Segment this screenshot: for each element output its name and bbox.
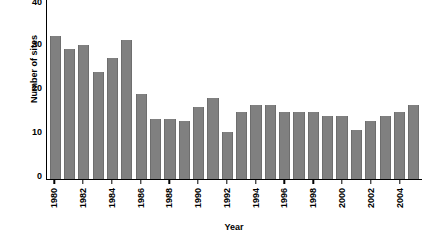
x-tick-label-cell: 2004 (394, 184, 405, 218)
y-tick-label: 0 (22, 172, 42, 181)
bar (179, 121, 190, 179)
x-tick-label-cell: 1994 (250, 184, 261, 218)
x-tick-label-cell (121, 184, 132, 218)
x-tick-label-cell (408, 184, 419, 218)
bar (207, 98, 218, 179)
x-tick-label: 1982 (78, 188, 88, 208)
x-tick-label: 1984 (107, 188, 117, 208)
x-tick-label: 2002 (366, 188, 376, 208)
y-tick-label: 20 (22, 84, 42, 93)
bar (250, 105, 261, 179)
bar (93, 72, 104, 179)
bar (107, 58, 118, 179)
x-tick-label-cell (236, 184, 247, 218)
x-tick-label-cell: 1992 (221, 184, 232, 218)
bar (336, 116, 347, 179)
bar (136, 94, 147, 179)
x-tick-label: 1990 (193, 188, 203, 208)
x-tick-label-cell: 1990 (193, 184, 204, 218)
x-tick-label-cell: 1986 (135, 184, 146, 218)
x-tick-label-cell (207, 184, 218, 218)
x-tick-label: 1996 (279, 188, 289, 208)
bar (222, 132, 233, 179)
x-tick-label-cell (322, 184, 333, 218)
x-tick-label-cell (264, 184, 275, 218)
y-tick-label: 30 (22, 40, 42, 49)
bar (380, 116, 391, 179)
bar (308, 112, 319, 179)
x-tick-label-cell: 2000 (336, 184, 347, 218)
bar-series (47, 0, 422, 179)
x-tick-label: 2004 (395, 188, 405, 208)
bar (64, 49, 75, 179)
x-tick-label-cell (63, 184, 74, 218)
x-tick-label: 1988 (164, 188, 174, 208)
plot-area (46, 0, 422, 180)
x-tick-label-cell (149, 184, 160, 218)
x-tick-label-cell: 1998 (308, 184, 319, 218)
bar (150, 119, 161, 179)
bar (365, 121, 376, 179)
bar-chart-figure: Number of sites 40 30 20 10 0 1980198219… (0, 0, 430, 238)
bar (351, 130, 362, 179)
y-tick-label: 10 (22, 128, 42, 137)
bar (408, 105, 419, 179)
bar (279, 112, 290, 179)
bar (236, 112, 247, 179)
x-axis-tick-labels: 1980198219841986198819901992199419961998… (46, 184, 422, 218)
x-tick-label-cell: 1988 (164, 184, 175, 218)
bar (265, 105, 276, 179)
x-tick-label-cell (293, 184, 304, 218)
bar (164, 119, 175, 179)
bar (394, 112, 405, 179)
x-tick-label: 1998 (308, 188, 318, 208)
bar (50, 36, 61, 179)
x-tick-label-cell (92, 184, 103, 218)
x-tick-label-cell: 1980 (49, 184, 60, 218)
y-tick-label: 40 (22, 0, 42, 7)
x-tick-label-cell: 1982 (77, 184, 88, 218)
bar (78, 45, 89, 179)
x-tick-label: 1994 (251, 188, 261, 208)
x-axis-title: Year (46, 222, 422, 232)
x-tick-label: 1986 (136, 188, 146, 208)
x-tick-label: 2000 (337, 188, 347, 208)
bar (193, 107, 204, 179)
x-tick-label-cell: 1984 (106, 184, 117, 218)
x-tick-label-cell: 1996 (279, 184, 290, 218)
x-tick-label: 1980 (49, 188, 59, 208)
x-tick-label: 1992 (222, 188, 232, 208)
bar (322, 116, 333, 179)
bar (293, 112, 304, 179)
y-axis-tick-labels: 40 30 20 10 0 (20, 0, 42, 238)
x-tick-label-cell (380, 184, 391, 218)
x-tick-label-cell (351, 184, 362, 218)
x-tick-label-cell (178, 184, 189, 218)
x-tick-label-cell: 2002 (365, 184, 376, 218)
bar (121, 40, 132, 179)
